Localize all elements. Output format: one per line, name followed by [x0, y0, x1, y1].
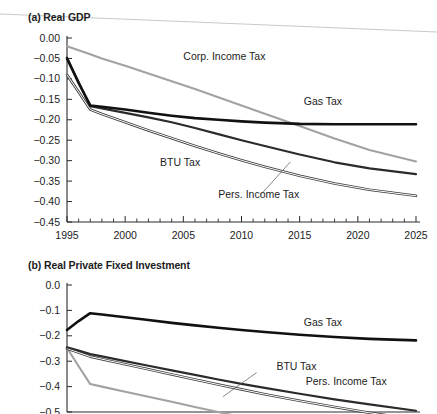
- panel-real-private-fixed-investment: (b) Real Private Fixed Investment 0.0−0.…: [0, 255, 437, 414]
- svg-text:−0.35: −0.35: [33, 175, 60, 187]
- panel-a-curves: [67, 46, 416, 196]
- svg-text:−0.1: −0.1: [39, 304, 60, 316]
- svg-text:1995: 1995: [55, 229, 79, 241]
- panel-b-plot: 0.0−0.1−0.2−0.3−0.4−0.5 Gas TaxBTU TaxPe…: [0, 255, 437, 414]
- svg-text:−0.25: −0.25: [33, 134, 60, 146]
- svg-text:BTU Tax: BTU Tax: [160, 156, 201, 168]
- panel-real-gdp: (a) Real GDP 0.00−0.05−0.10−0.15−0.20−0.…: [0, 0, 437, 255]
- svg-text:−0.3: −0.3: [39, 355, 60, 367]
- panel-a-plot: 0.00−0.05−0.10−0.15−0.20−0.25−0.30−0.35−…: [0, 0, 437, 255]
- svg-text:−0.5: −0.5: [39, 406, 60, 414]
- svg-text:Gas Tax: Gas Tax: [304, 95, 343, 107]
- svg-text:−0.40: −0.40: [33, 195, 60, 207]
- svg-text:2020: 2020: [346, 229, 370, 241]
- svg-text:Corp. Income Tax: Corp. Income Tax: [183, 50, 266, 62]
- svg-text:Pers. Income Tax: Pers. Income Tax: [218, 188, 300, 200]
- svg-text:−0.20: −0.20: [33, 113, 60, 125]
- svg-text:−0.4: −0.4: [39, 380, 60, 392]
- svg-text:−0.30: −0.30: [33, 154, 60, 166]
- svg-text:2025: 2025: [404, 229, 428, 241]
- svg-text:2000: 2000: [113, 229, 137, 241]
- svg-text:2015: 2015: [288, 229, 312, 241]
- figure-container: (a) Real GDP 0.00−0.05−0.10−0.15−0.20−0.…: [0, 0, 437, 414]
- svg-text:Pers. Income Tax: Pers. Income Tax: [306, 375, 388, 387]
- svg-text:BTU Tax: BTU Tax: [276, 360, 317, 372]
- svg-text:0.00: 0.00: [40, 32, 61, 44]
- svg-text:−0.10: −0.10: [33, 72, 60, 84]
- panel-b-axes: 0.0−0.1−0.2−0.3−0.4−0.5: [39, 279, 420, 414]
- svg-text:Gas Tax: Gas Tax: [304, 316, 343, 328]
- svg-text:−0.15: −0.15: [33, 93, 60, 105]
- svg-text:0.0: 0.0: [45, 279, 60, 291]
- svg-text:−0.2: −0.2: [39, 329, 60, 341]
- panel-b-curves: [67, 313, 416, 414]
- svg-text:−0.05: −0.05: [33, 52, 60, 64]
- svg-text:2005: 2005: [172, 229, 196, 241]
- svg-text:2010: 2010: [230, 229, 254, 241]
- svg-text:−0.45: −0.45: [33, 216, 60, 228]
